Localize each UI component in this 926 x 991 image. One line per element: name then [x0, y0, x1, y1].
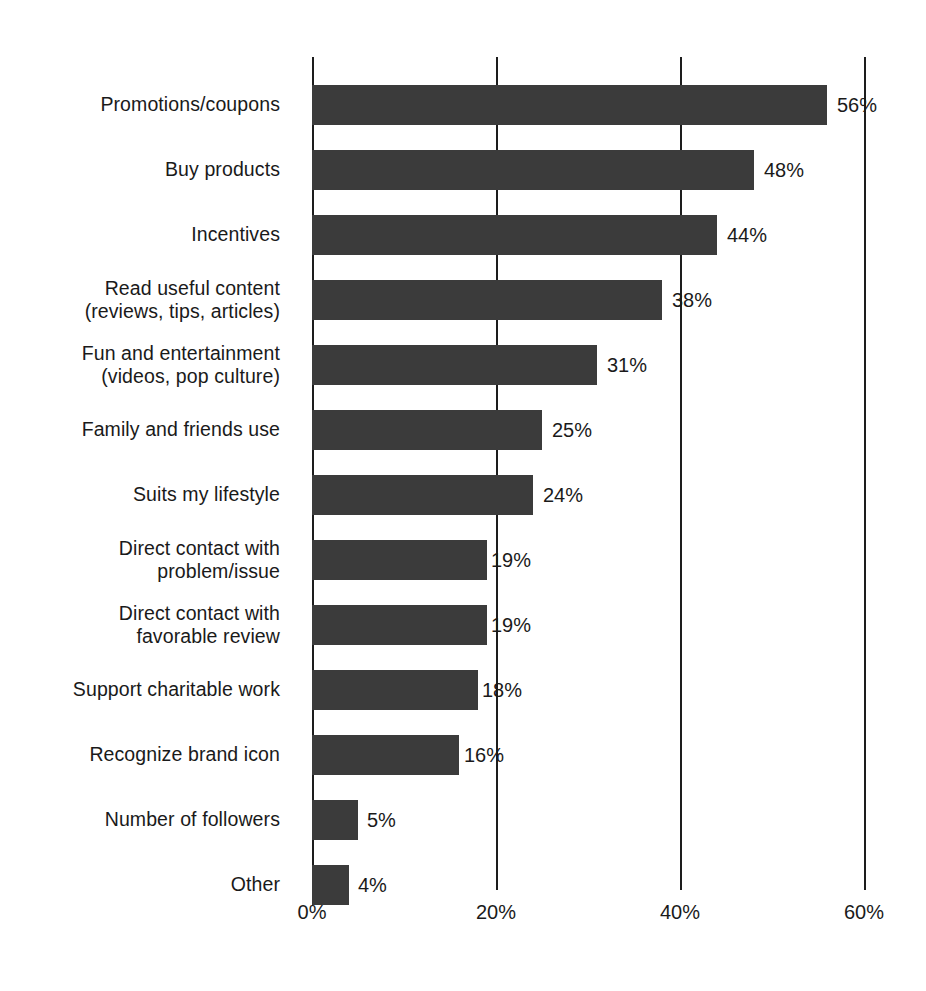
bar: [312, 345, 597, 385]
category-label: Buy products: [0, 158, 280, 181]
category-label: Direct contact with favorable review: [0, 602, 280, 648]
category-label: Other: [0, 873, 280, 896]
bar-value-label: 38%: [672, 289, 712, 311]
bar-value-label: 4%: [358, 874, 387, 896]
bar-value-label: 19%: [491, 549, 531, 571]
bar-row: Fun and entertainment (videos, pop cultu…: [0, 345, 926, 385]
bar: [312, 735, 459, 775]
bar: [312, 800, 358, 840]
category-label: Recognize brand icon: [0, 743, 280, 766]
bar-value-label: 19%: [491, 614, 531, 636]
bar-row: Incentives 44%: [0, 215, 926, 255]
category-label: Fun and entertainment (videos, pop cultu…: [0, 342, 280, 388]
category-label: Suits my lifestyle: [0, 483, 280, 506]
category-label: Incentives: [0, 223, 280, 246]
bar-value-label: 24%: [543, 484, 583, 506]
bar-value-label: 44%: [727, 224, 767, 246]
bar-value-label: 5%: [367, 809, 396, 831]
category-label: Direct contact with problem/issue: [0, 537, 280, 583]
bar-value-label: 18%: [482, 679, 522, 701]
bar: [312, 475, 533, 515]
category-label: Read useful content (reviews, tips, arti…: [0, 277, 280, 323]
bar: [312, 150, 754, 190]
bar-row: Suits my lifestyle 24%: [0, 475, 926, 515]
bar: [312, 85, 827, 125]
bar: [312, 410, 542, 450]
bar-row: Other 4%: [0, 865, 926, 905]
bar: [312, 280, 662, 320]
category-label: Support charitable work: [0, 678, 280, 701]
category-label: Promotions/coupons: [0, 93, 280, 116]
bar-value-label: 48%: [764, 159, 804, 181]
bar-row: Read useful content (reviews, tips, arti…: [0, 280, 926, 320]
bar: [312, 540, 487, 580]
bar-value-label: 56%: [837, 94, 877, 116]
bar-row: Direct contact with favorable review 19%: [0, 605, 926, 645]
category-label: Number of followers: [0, 808, 280, 831]
bar-value-label: 31%: [607, 354, 647, 376]
bar: [312, 215, 717, 255]
bar-row: Promotions/coupons 56%: [0, 85, 926, 125]
bar-rows: Promotions/coupons 56% Buy products 48% …: [0, 0, 926, 991]
bar: [312, 865, 349, 905]
bar-value-label: 25%: [552, 419, 592, 441]
x-tick-label: 20%: [476, 900, 516, 924]
x-tick-label: 40%: [660, 900, 700, 924]
bar-row: Support charitable work 18%: [0, 670, 926, 710]
bar-row: Number of followers 5%: [0, 800, 926, 840]
bar: [312, 605, 487, 645]
bar-row: Direct contact with problem/issue 19%: [0, 540, 926, 580]
category-label: Family and friends use: [0, 418, 280, 441]
bar-chart: Promotions/coupons 56% Buy products 48% …: [0, 0, 926, 991]
bar-row: Family and friends use 25%: [0, 410, 926, 450]
bar-row: Buy products 48%: [0, 150, 926, 190]
bar: [312, 670, 478, 710]
x-tick-label: 60%: [844, 900, 884, 924]
bar-row: Recognize brand icon 16%: [0, 735, 926, 775]
bar-value-label: 16%: [464, 744, 504, 766]
x-tick-label: 0%: [298, 900, 327, 924]
